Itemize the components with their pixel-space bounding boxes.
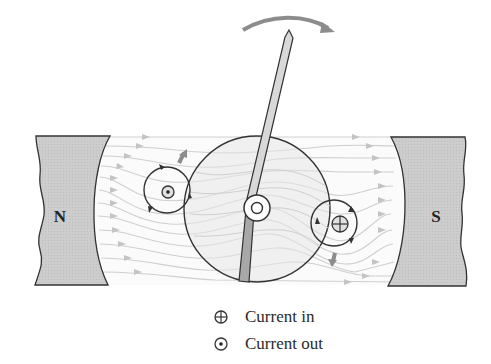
circle-plus-icon [213,309,229,325]
circle-dot-icon [213,336,229,352]
legend-item-current-in: Current in [213,303,323,330]
legend-label-current-in: Current in [245,307,314,327]
legend-item-current-out: Current out [213,330,323,357]
legend-label-current-out: Current out [245,334,323,354]
north-pole-label: N [54,207,67,226]
south-pole-label: S [431,207,440,226]
legend: Current in Current out [213,303,323,357]
